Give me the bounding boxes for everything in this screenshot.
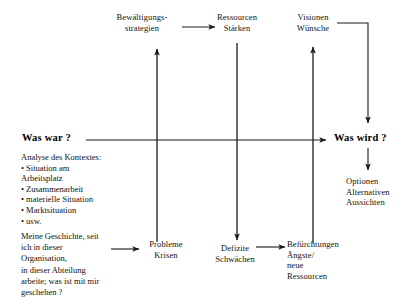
node-bewaeltigungsstrategien: Bewältigungs- strategien [103,12,181,33]
node-optionen-alternativen: Optionen Alternativen Aussichten [346,176,414,208]
axis-label-was-wird: Was wird ? [334,132,387,143]
axis-label-was-war: Was war ? [22,132,71,143]
node-visionen-wuensche: Visionen Wünsche [285,12,341,33]
node-ressourcen-staerken: Ressourcen Stärken [205,12,269,33]
arrow-visionen-to-optionen [337,23,368,123]
node-defizite-schwaechen: Defizite Schwächen [211,243,259,264]
node-probleme-krisen: Probleme Krisen [141,239,191,260]
context-analysis-block: Analyse des Kontextes: • Situation am Ar… [21,152,151,226]
personal-story-block: Meine Geschichte, seit ich in dieser Org… [21,231,133,298]
diagram-canvas: Bewältigungs- strategien Ressourcen Stär… [0,0,415,305]
node-befuerchtungen-aengste: Befürchtungen Ängste/ neue Ressourcen [287,239,365,281]
